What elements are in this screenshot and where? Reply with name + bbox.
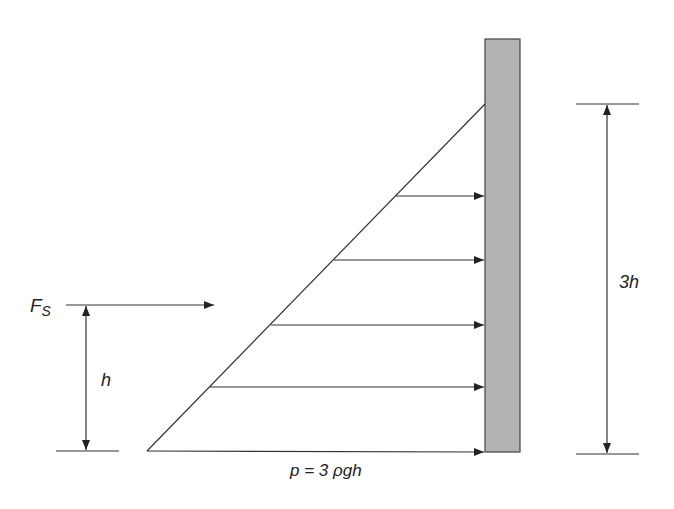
pressure-arrow-base — [147, 451, 484, 452]
pressure-diagram: FS h 3h p = 3 ρgh — [0, 0, 674, 509]
lever-arm-label: h — [101, 370, 111, 390]
wall — [485, 39, 520, 452]
pressure-triangle-edge — [147, 104, 485, 451]
depth-label: 3h — [619, 272, 639, 292]
pressure-label: p = 3 ρgh — [289, 461, 362, 480]
pressure-arrows — [147, 196, 484, 452]
force-label: FS — [30, 295, 52, 319]
